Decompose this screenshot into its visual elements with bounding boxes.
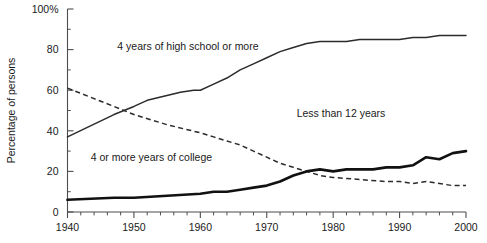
series-line-1: [68, 88, 467, 185]
y-tick-label: 20: [47, 165, 59, 177]
x-tick-label: 1990: [388, 221, 412, 233]
x-tick-label: 1940: [56, 221, 80, 233]
annotation-label-1: Less than 12 years: [297, 107, 386, 119]
y-axis-title-text: Percentage of persons: [5, 58, 17, 164]
series-lines: [68, 35, 467, 199]
x-tick-label: 1980: [321, 221, 345, 233]
line-chart: 020406080100% 19401950196019701980199020…: [0, 0, 487, 243]
x-tick-label: 1950: [122, 221, 146, 233]
y-axis-title: Percentage of persons: [5, 58, 17, 164]
y-tick-label: 40: [47, 125, 59, 137]
y-tick-label: 80: [47, 43, 59, 55]
y-tick-label: 100%: [32, 3, 59, 15]
x-tick-label: 2000: [454, 221, 478, 233]
annotation-label-2: 4 or more years of college: [91, 151, 213, 163]
annotation-label-0: 4 years of high school or more: [117, 40, 258, 52]
y-tick-label: 0: [53, 206, 59, 218]
y-tick-label: 60: [47, 84, 59, 96]
chart-container: 020406080100% 19401950196019701980199020…: [0, 0, 487, 243]
x-axis-tick-labels: 1940195019601970198019902000: [56, 221, 478, 233]
x-tick-label: 1960: [189, 221, 213, 233]
y-axis-tick-labels: 020406080100%: [32, 3, 59, 218]
x-tick-label: 1970: [255, 221, 279, 233]
